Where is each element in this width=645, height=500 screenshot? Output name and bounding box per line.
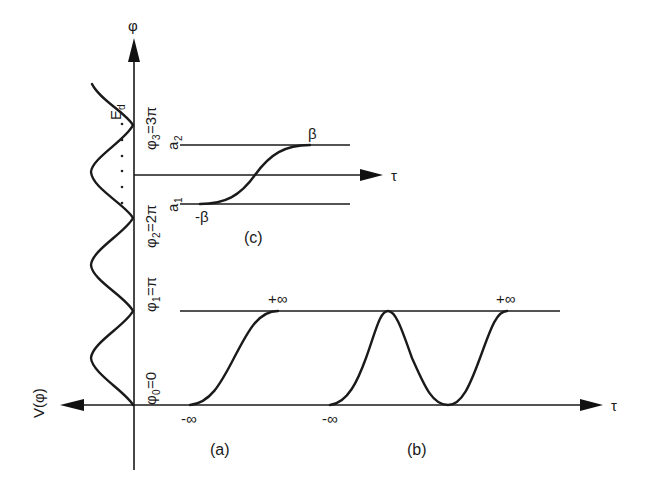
phi-axis-arrow-icon	[128, 38, 140, 62]
svg-text:φ: φ	[142, 140, 159, 150]
panel-a-curve	[190, 311, 278, 405]
a2-label: a 2	[164, 135, 184, 150]
diagram-canvas: φ τ V(φ) E d φ 0 =0 φ 1 =π φ 2 =2π φ 3 =…	[0, 0, 645, 500]
panel-c-caption: (c)	[244, 229, 263, 246]
svg-text:φ: φ	[142, 395, 159, 405]
panel-c-tau-label: τ	[391, 167, 397, 184]
level-label-phi3: φ 3 =3π	[142, 107, 162, 150]
svg-text:=3π: =3π	[142, 107, 159, 134]
panel-a-caption: (a)	[210, 441, 230, 458]
panel-a: -∞ +∞ (a)	[181, 290, 288, 458]
energy-dotted-line	[121, 123, 124, 205]
panel-b-start-label: -∞	[322, 410, 338, 427]
svg-text:2: 2	[173, 135, 184, 141]
panel-c-end-label: β	[308, 125, 317, 142]
potential-curve	[91, 84, 133, 405]
panel-c-tau-arrow-icon	[360, 169, 383, 181]
potential-label: V(φ)	[30, 388, 47, 418]
energy-label: E d	[107, 104, 127, 120]
svg-text:E: E	[107, 110, 124, 120]
svg-text:d: d	[116, 104, 127, 110]
level-label-phi2: φ 2 =2π	[142, 205, 162, 248]
svg-text:=π: =π	[142, 277, 159, 296]
tau-axis-label: τ	[611, 397, 617, 414]
panel-b-caption: (b)	[407, 441, 427, 458]
panel-b-curve	[330, 311, 507, 405]
panel-a-start-label: -∞	[181, 410, 197, 427]
panel-b: -∞ +∞ (b)	[322, 290, 516, 458]
level-label-phi1: φ 1 =π	[142, 277, 162, 312]
panel-b-end-label: +∞	[496, 290, 516, 307]
svg-text:=2π: =2π	[142, 205, 159, 232]
svg-text:a: a	[164, 203, 181, 212]
panel-c: τ a 2 a 1 -β β (c)	[134, 125, 397, 246]
svg-text:1: 1	[173, 197, 184, 203]
svg-text:a: a	[164, 141, 181, 150]
svg-text:φ: φ	[142, 238, 159, 248]
level-label-phi0: φ 0 =0	[142, 372, 162, 405]
svg-text:=0: =0	[142, 372, 159, 389]
v-axis-arrow-icon	[60, 399, 84, 411]
panel-a-end-label: +∞	[268, 290, 288, 307]
panel-c-start-label: -β	[195, 208, 209, 225]
tau-axis-arrow-icon	[580, 399, 603, 411]
svg-text:φ: φ	[142, 302, 159, 312]
phi-axis-label: φ	[128, 17, 138, 34]
